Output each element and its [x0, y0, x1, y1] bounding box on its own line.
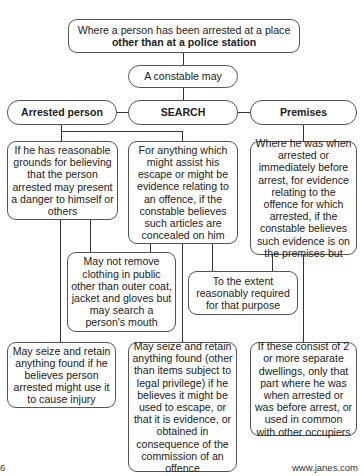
- escape-box: For anything which might assist his esca…: [128, 141, 238, 244]
- seize-injury-box: May seize and retain anything found if h…: [7, 342, 116, 408]
- arrested-person-label: Arrested person: [21, 106, 103, 118]
- arrested-person-header: Arrested person: [7, 100, 117, 125]
- search-label: SEARCH: [161, 106, 206, 118]
- clothing-box: May not remove clothing in public other …: [67, 252, 176, 332]
- constable-box: A constable may: [128, 65, 238, 88]
- premises-where-box: Where he was when arrested or immediatel…: [250, 141, 357, 255]
- connector-root-constable: [183, 53, 184, 65]
- connector-danger-clothing: [90, 220, 91, 252]
- escape-text: For anything which might assist his esca…: [132, 144, 234, 242]
- dwellings-text: If these consist of 2 or more separate d…: [254, 340, 353, 438]
- danger-text: If he has reasonable grounds for believi…: [11, 144, 114, 217]
- seize-injury-text: May seize and retain anything found if h…: [11, 345, 112, 406]
- premises-label: Premises: [280, 106, 327, 118]
- constable-label: A constable may: [144, 70, 222, 82]
- premises-where-text: Where he was when arrested or immediatel…: [254, 137, 353, 259]
- connector-constable-search: [183, 88, 184, 100]
- connector-branch-escape: [182, 131, 183, 141]
- page-number: 6: [0, 462, 5, 473]
- seize-evidence-text: May seize and retain anything found (oth…: [132, 340, 233, 474]
- connector-search-premises: [238, 112, 250, 113]
- connector-premises-dwellings: [303, 255, 304, 342]
- connector-escape-clothing: [150, 244, 151, 252]
- dwellings-box: If these consist of 2 or more separate d…: [250, 342, 357, 436]
- extent-box: To the extent reasonably required for th…: [188, 271, 298, 315]
- premises-header: Premises: [250, 100, 357, 125]
- root-box: Where a person has been arrested at a pl…: [68, 19, 300, 53]
- source-credit: www.janes.com: [292, 462, 358, 473]
- root-text-bold: other than at a police station: [112, 36, 256, 48]
- root-text-plain: Where a person has been arrested at a pl…: [78, 24, 291, 36]
- connector-arrested-search: [117, 112, 128, 113]
- extent-text: To the extent reasonably required for th…: [192, 275, 294, 312]
- connector-danger-seize: [60, 220, 61, 342]
- connector-escape-seize: [182, 244, 183, 342]
- seize-evidence-box: May seize and retain anything found (oth…: [128, 342, 237, 472]
- search-header: SEARCH: [128, 100, 238, 125]
- clothing-text: May not remove clothing in public other …: [71, 255, 172, 328]
- connector-arrested-branch: [61, 131, 183, 132]
- danger-box: If he has reasonable grounds for believi…: [7, 141, 118, 220]
- connector-escape-extent: [212, 244, 213, 271]
- root-text: Where a person has been arrested at a pl…: [72, 24, 296, 48]
- connector-arrested-down: [61, 125, 62, 141]
